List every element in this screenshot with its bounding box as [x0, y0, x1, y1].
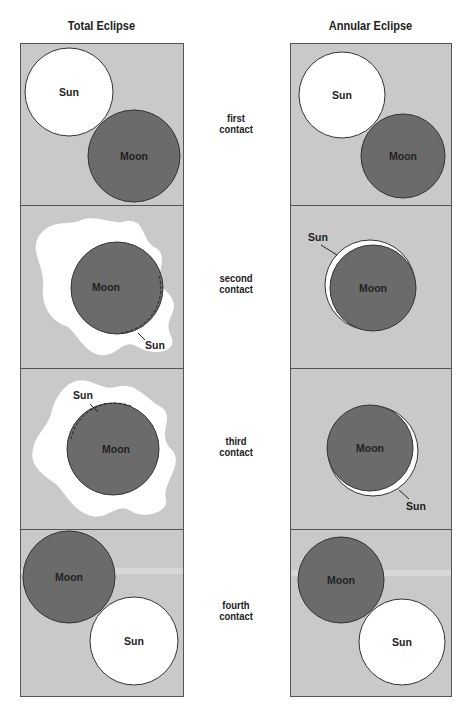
- total-second-contact-panel: Moon Sun: [21, 206, 183, 369]
- total-fourth-contact-panel: Moon Sun: [21, 530, 183, 696]
- total-eclipse-column: Sun Moon Moon Sun Moon Sun Moo: [20, 43, 184, 697]
- moon-label: Moon: [102, 443, 130, 455]
- annular-third-contact-panel: Moon Sun: [291, 369, 451, 530]
- moon-label: Moon: [356, 442, 384, 454]
- fourth-contact-label: fourthcontact: [200, 600, 272, 622]
- total-third-contact-panel: Moon Sun: [21, 369, 183, 530]
- first-contact-label: firstcontact: [200, 113, 272, 135]
- sun-label: Sun: [59, 86, 79, 98]
- moon-label: Moon: [55, 571, 83, 583]
- annular-eclipse-column: Sun Moon Moon Sun Moon Sun Moon Sun: [290, 43, 452, 697]
- moon-label: Moon: [359, 282, 387, 294]
- annular-second-contact-panel: Moon Sun: [291, 206, 451, 369]
- moon-label: Moon: [92, 281, 120, 293]
- sun-label: Sun: [145, 339, 165, 351]
- sun-label: Sun: [124, 635, 144, 647]
- third-contact-label: thirdcontact: [200, 436, 272, 458]
- sun-label: Sun: [392, 636, 412, 648]
- second-contact-label: secondcontact: [200, 273, 272, 295]
- annular-fourth-contact-panel: Moon Sun: [291, 530, 451, 696]
- moon-label: Moon: [327, 574, 355, 586]
- sun-label: Sun: [406, 500, 426, 512]
- sun-label: Sun: [73, 389, 93, 401]
- annular-first-contact-panel: Sun Moon: [291, 44, 451, 206]
- moon-label: Moon: [389, 150, 417, 162]
- annular-eclipse-title: Annular Eclipse: [302, 18, 439, 33]
- sun-label: Sun: [308, 231, 328, 243]
- total-first-contact-panel: Sun Moon: [21, 44, 183, 206]
- sun-label: Sun: [332, 89, 352, 101]
- moon-label: Moon: [120, 150, 148, 162]
- total-eclipse-title: Total Eclipse: [32, 18, 171, 33]
